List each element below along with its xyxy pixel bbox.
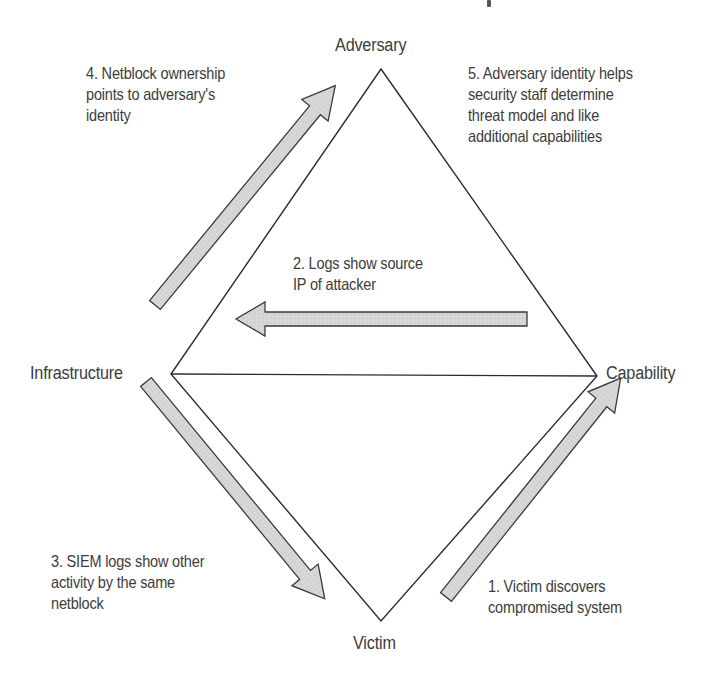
step-5-note: 5. Adversary identity helps security sta… (468, 63, 633, 147)
diamond-horizontal-divider (171, 374, 597, 376)
step-4-line-1: 4. Netblock ownership (86, 63, 225, 84)
step-3-line-1: 3. SIEM logs show other (51, 551, 204, 572)
vertex-label-capability: Capability (606, 363, 675, 384)
step-5-line-2: security staff determine (468, 84, 633, 105)
step-4-line-3: identity (86, 105, 225, 126)
diamond-model-diagram: Adversary Infrastructure Capability Vict… (0, 0, 725, 688)
diamond-border (171, 69, 597, 621)
vertex-label-infrastructure: Infrastructure (30, 363, 123, 384)
step-1-line-2: compromised system (488, 597, 622, 618)
step-2-line-2: IP of attacker (293, 274, 423, 295)
step-5-line-4: additional capabilities (468, 126, 633, 147)
arrow-step-1-icon (433, 368, 634, 608)
step-3-note: 3. SIEM logs show other activity by the … (51, 551, 204, 614)
vertex-label-adversary: Adversary (335, 35, 406, 56)
step-5-line-3: threat model and like (468, 105, 633, 126)
step-3-line-3: netblock (51, 593, 204, 614)
step-5-line-1: 5. Adversary identity helps (468, 63, 633, 84)
step-2-line-1: 2. Logs show source (293, 253, 423, 274)
vertex-label-victim: Victim (353, 633, 396, 654)
arrow-step-2-icon (236, 302, 527, 336)
step-3-line-2: activity by the same (51, 572, 204, 593)
diamond-outline (171, 69, 597, 621)
step-1-note: 1. Victim discovers compromised system (488, 576, 622, 618)
step-4-line-2: points to adversary's (86, 84, 225, 105)
step-1-line-1: 1. Victim discovers (488, 576, 622, 597)
step-2-note: 2. Logs show source IP of attacker (293, 253, 423, 295)
step-4-note: 4. Netblock ownership points to adversar… (86, 63, 225, 126)
